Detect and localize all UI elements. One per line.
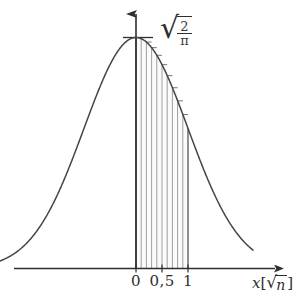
histogram-bar [141, 39, 146, 269]
fraction-two-over-pi: 2 π [177, 16, 192, 47]
histogram-bar [152, 48, 157, 269]
plot-canvas [0, 0, 307, 301]
histogram-bar [172, 88, 177, 269]
histogram-bar [167, 76, 172, 269]
x-axis-label-bracket-close: ] [287, 274, 293, 292]
sqrt-n-group: √n [266, 275, 287, 293]
histogram-bar [178, 101, 183, 269]
peak-value-label: √ 2 π [160, 16, 192, 47]
histogram-bar [162, 65, 167, 269]
fraction-denominator: π [177, 33, 192, 47]
histogram-bar [157, 55, 162, 268]
x-tick-label-0-5: 0,5 [150, 272, 175, 290]
histogram-bar [146, 42, 151, 268]
x-axis-label: x[√n] [252, 274, 293, 293]
density-curve [0, 38, 253, 262]
sqrt-radicand: n [275, 275, 287, 293]
histogram-bar [183, 115, 188, 269]
figure-half-normal-distribution: √ 2 π 0 0,5 1 x[√n] [0, 0, 307, 301]
fraction-numerator: 2 [177, 20, 192, 33]
x-tick-label-0: 0 [131, 272, 141, 290]
x-tick-label-1: 1 [183, 272, 193, 290]
